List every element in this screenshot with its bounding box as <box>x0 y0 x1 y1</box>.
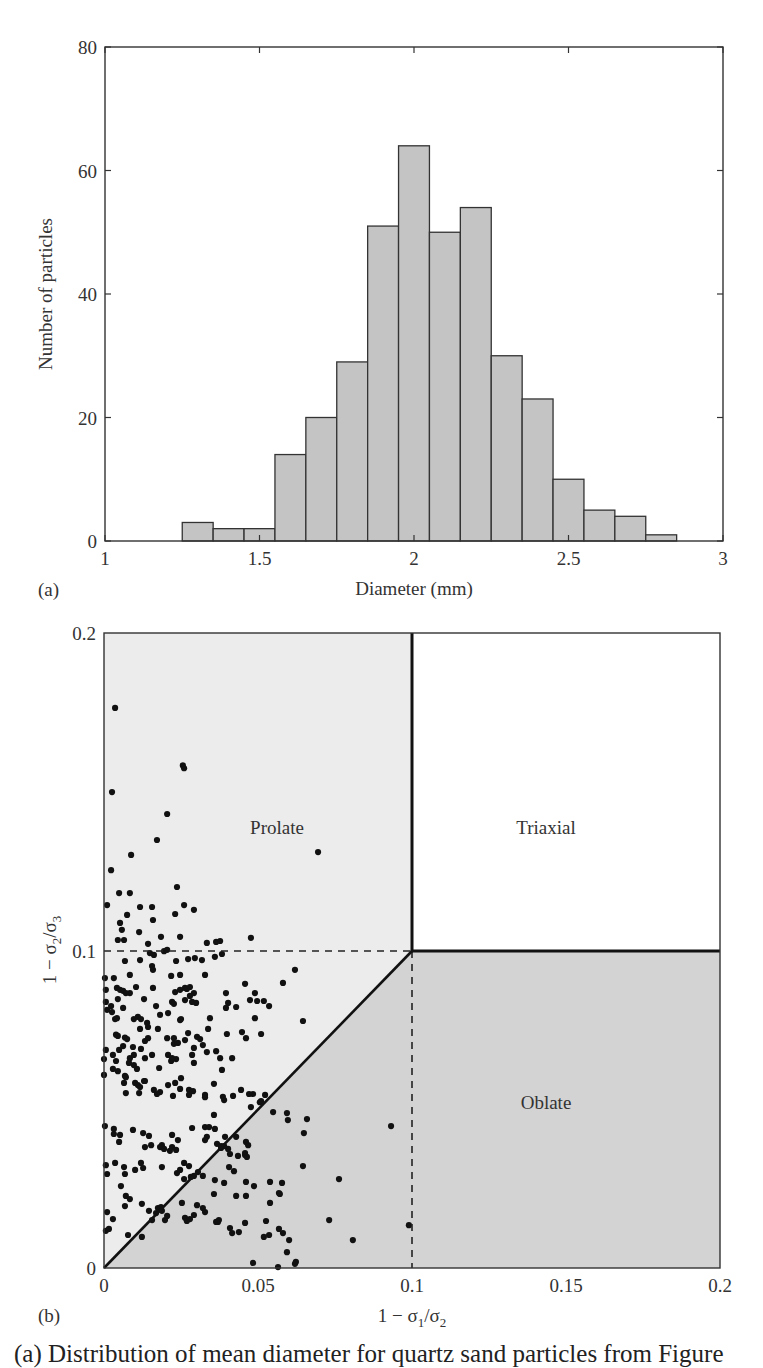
data-point <box>111 1131 117 1137</box>
data-point <box>115 1033 121 1039</box>
data-point <box>194 1202 200 1208</box>
histogram-bar <box>182 522 213 541</box>
data-point <box>189 1052 195 1058</box>
data-point <box>192 955 198 961</box>
data-point <box>211 1191 217 1197</box>
region-label-triaxial: Triaxial <box>516 817 575 838</box>
data-point <box>275 1264 281 1270</box>
data-point <box>130 1044 136 1050</box>
data-point <box>117 920 123 926</box>
data-point <box>137 1026 143 1032</box>
histogram-bar <box>399 146 430 541</box>
data-point <box>102 975 108 981</box>
data-point <box>127 1196 133 1202</box>
data-point <box>285 1117 291 1123</box>
data-point <box>179 1200 185 1206</box>
data-point <box>136 929 142 935</box>
histogram-bar <box>368 226 399 541</box>
histogram-bar <box>213 529 244 541</box>
data-point <box>197 1036 203 1042</box>
data-point <box>178 1016 184 1022</box>
data-point <box>141 1078 147 1084</box>
data-point <box>248 935 254 941</box>
x-tick-label: 1.5 <box>248 548 272 569</box>
data-point <box>177 934 183 940</box>
data-point <box>115 996 121 1002</box>
scatter-x-axis-label: 1 − σ1/σ2 <box>378 1305 447 1330</box>
data-point <box>158 934 164 940</box>
scatter-y-axis-label: 1 − σ2/σ3 <box>39 916 64 985</box>
data-point <box>131 1062 137 1068</box>
data-point <box>146 1133 152 1139</box>
data-point <box>138 1160 144 1166</box>
data-point <box>235 1153 241 1159</box>
histogram-y-axis-label: Number of particles <box>35 218 56 370</box>
data-point <box>233 1004 239 1010</box>
x-tick-label: 0.05 <box>241 1275 274 1296</box>
data-point <box>248 1104 254 1110</box>
data-point <box>108 867 114 873</box>
data-point <box>301 1130 307 1136</box>
data-point <box>150 967 156 973</box>
data-point <box>242 981 248 987</box>
data-point <box>199 957 205 963</box>
data-point <box>326 1217 332 1223</box>
data-point <box>211 1112 217 1118</box>
data-point <box>284 1110 290 1116</box>
histogram-bar <box>615 516 646 541</box>
data-point <box>222 1134 228 1140</box>
data-point <box>217 938 223 944</box>
data-point <box>145 1035 151 1041</box>
figure-caption: (a) Distribution of mean diameter for qu… <box>14 1340 724 1368</box>
data-point <box>157 1012 163 1018</box>
y-tick-label: 60 <box>78 161 97 182</box>
data-point <box>246 1091 252 1097</box>
data-point <box>104 902 110 908</box>
data-point <box>300 1163 306 1169</box>
data-point <box>206 1124 212 1130</box>
data-point <box>280 1230 286 1236</box>
data-point <box>263 1218 269 1224</box>
x-tick-label: 2.5 <box>557 548 581 569</box>
data-point <box>116 1139 122 1145</box>
data-point <box>122 1171 128 1177</box>
y-tick-label: 0 <box>87 1258 97 1279</box>
data-point <box>139 1201 145 1207</box>
data-point <box>177 972 183 978</box>
x-tick-label: 0.1 <box>400 1275 424 1296</box>
data-point <box>212 954 218 960</box>
data-point <box>112 705 118 711</box>
data-point <box>120 1005 126 1011</box>
data-point <box>251 1183 257 1189</box>
data-point <box>108 1003 114 1009</box>
data-point <box>148 1142 154 1148</box>
data-point <box>182 997 188 1003</box>
data-point <box>236 1229 242 1235</box>
data-point <box>245 1142 251 1148</box>
data-point <box>112 1160 118 1166</box>
data-point <box>121 937 127 943</box>
data-point <box>292 967 298 973</box>
data-point <box>167 1148 173 1154</box>
data-point <box>121 1080 127 1086</box>
data-point <box>181 765 187 771</box>
data-point <box>239 1029 245 1035</box>
data-point <box>233 1193 239 1199</box>
data-point <box>230 1093 236 1099</box>
data-point <box>267 1200 273 1206</box>
scatter-x-ticks: 00.050.10.150.2 <box>99 1275 732 1296</box>
data-point <box>121 1164 127 1170</box>
region-label-oblate: Oblate <box>521 1092 572 1113</box>
data-point <box>140 1130 146 1136</box>
data-point <box>118 1183 124 1189</box>
data-point <box>137 904 143 910</box>
data-point <box>115 1068 121 1074</box>
y-tick-label: 80 <box>78 37 97 58</box>
data-point <box>177 1086 183 1092</box>
data-point <box>186 1092 192 1098</box>
y-label-sub3: 3 <box>49 916 64 923</box>
data-point <box>300 1018 306 1024</box>
data-point <box>136 1090 142 1096</box>
y-tick-label: 0 <box>88 531 98 552</box>
data-point <box>170 1093 176 1099</box>
